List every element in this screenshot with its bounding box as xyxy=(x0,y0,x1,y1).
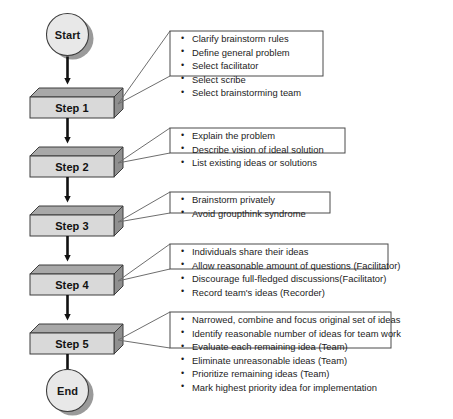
note-item: Brainstorm privately xyxy=(180,193,306,207)
note-item: Describe vision of ideal solution xyxy=(180,143,324,157)
note-item: Mark highest priority idea for implement… xyxy=(180,381,401,395)
note-item: List existing ideas or solutions xyxy=(180,156,324,170)
note-callout-2 xyxy=(118,128,170,163)
note-item: Individuals share their ideas xyxy=(180,245,400,259)
note-item: Record team's ideas (Recorder) xyxy=(180,286,400,300)
note-item: Evaluate each remaining idea (Team) xyxy=(180,340,401,354)
note-item: Clarify brainstorm rules xyxy=(180,32,301,46)
note-item: Explain the problem xyxy=(180,129,324,143)
note-list-step-5: Narrowed, combine and focus original set… xyxy=(180,313,401,395)
note-item: Prioritize remaining ideas (Team) xyxy=(180,367,401,381)
note-item: Allow reasonable amount of questions (Fa… xyxy=(180,259,400,273)
note-list-step-2: Explain the problemDescribe vision of id… xyxy=(180,129,324,170)
end-node xyxy=(47,370,94,416)
note-item: Discourage full-fledged discussions(Faci… xyxy=(180,272,400,286)
note-item: Eliminate unreasonable ideas (Team) xyxy=(180,354,401,368)
step-4-node xyxy=(30,265,123,295)
step-1-node xyxy=(30,88,123,118)
note-item: Select scribe xyxy=(180,73,301,87)
note-item: Select facilitator xyxy=(180,59,301,73)
note-item: Select brainstorming team xyxy=(180,86,301,100)
note-list-step-4: Individuals share their ideasAllow reaso… xyxy=(180,245,400,299)
note-item: Avoid groupthink syndrome xyxy=(180,207,306,221)
note-item: Define general problem xyxy=(180,46,301,60)
note-list-step-3: Brainstorm privatelyAvoid groupthink syn… xyxy=(180,193,306,220)
flowchart-canvas: Start End Step 1 Step 2 Step 3 Step 4 St… xyxy=(0,0,453,419)
step-3-node xyxy=(30,206,123,236)
note-callout-3 xyxy=(118,192,170,222)
step-2-node xyxy=(30,147,123,177)
start-node xyxy=(47,14,94,60)
note-callout-4 xyxy=(118,244,170,281)
note-item: Narrowed, combine and focus original set… xyxy=(180,313,401,327)
note-item: Identify reasonable number of ideas for … xyxy=(180,327,401,341)
note-list-step-1: Clarify brainstorm rulesDefine general p… xyxy=(180,32,301,100)
note-callout-1 xyxy=(118,31,170,104)
step-5-node xyxy=(30,324,123,354)
note-callout-5 xyxy=(118,312,170,348)
